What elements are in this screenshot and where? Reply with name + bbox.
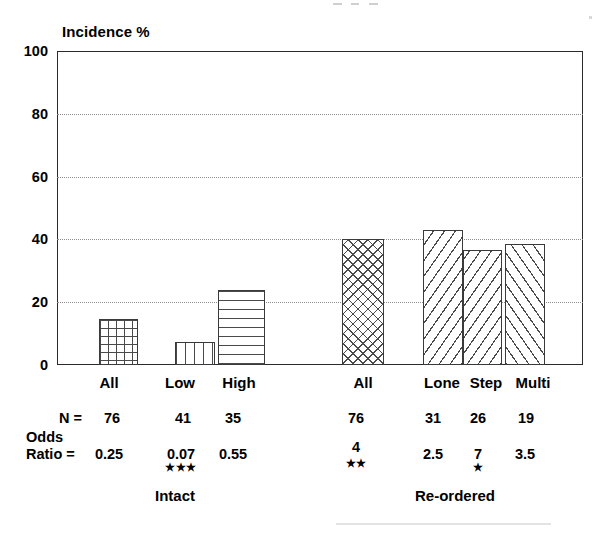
plot-area <box>57 51 583 365</box>
cell-or-reordered-all: 4 <box>337 440 375 456</box>
y-tick-100: 100 <box>0 44 48 59</box>
bar-reordered-multi <box>505 244 545 365</box>
bar-intact-low <box>175 342 215 365</box>
x-label-reordered-multi: Multi <box>504 374 562 391</box>
cell-n-reordered-lone: 31 <box>412 411 454 427</box>
scan-artifact <box>351 3 359 5</box>
cell-n-reordered-all: 76 <box>334 411 378 427</box>
stars-reordered-all: ★★ <box>337 458 375 469</box>
x-label-reordered-all: All <box>333 374 393 391</box>
cell-n-intact-low: 41 <box>162 411 204 427</box>
group-label-intact: Intact <box>135 487 215 504</box>
gridline-80 <box>57 114 583 115</box>
cell-or-reordered-multi: 3.5 <box>502 447 548 463</box>
gridline-60 <box>57 177 583 178</box>
bar-intact-high <box>218 290 265 365</box>
scan-artifact <box>336 523 551 525</box>
stars-intact-low: ★★★ <box>155 462 207 473</box>
y-tick-0: 0 <box>0 358 48 373</box>
y-tick-80: 80 <box>0 107 48 122</box>
y-tick-20: 20 <box>0 295 48 310</box>
scan-artifact <box>589 16 592 19</box>
group-label-reordered: Re-ordered <box>395 487 515 504</box>
figure-root: Incidence % 100 80 60 40 20 0 All Low Hi… <box>0 0 608 542</box>
stars-reordered-step: ★ <box>459 462 497 473</box>
row-label-odds-line2: Ratio = <box>26 447 75 463</box>
y-tick-60: 60 <box>0 170 48 185</box>
row-label-n: N = <box>59 411 82 427</box>
bar-reordered-step <box>463 250 502 365</box>
cell-or-intact-high: 0.55 <box>207 447 259 463</box>
cell-n-reordered-multi: 19 <box>504 411 548 427</box>
x-label-intact-low: Low <box>150 374 210 391</box>
x-label-intact-high: High <box>209 374 269 391</box>
bar-intact-all <box>99 319 138 365</box>
scan-artifact <box>369 3 378 5</box>
cell-n-intact-all: 76 <box>89 411 135 427</box>
gridline-40 <box>57 239 583 240</box>
cell-or-reordered-lone: 2.5 <box>410 447 456 463</box>
y-axis-title: Incidence % <box>62 23 150 40</box>
cell-or-intact-all: 0.25 <box>83 447 135 463</box>
bar-reordered-lone <box>423 230 463 365</box>
bar-reordered-all <box>342 239 384 365</box>
scan-artifact <box>333 3 342 5</box>
row-label-odds-line1: Odds <box>26 430 63 446</box>
cell-n-reordered-step: 26 <box>457 411 499 427</box>
cell-n-intact-high: 35 <box>211 411 255 427</box>
y-tick-40: 40 <box>0 232 48 247</box>
x-label-intact-all: All <box>79 374 139 391</box>
